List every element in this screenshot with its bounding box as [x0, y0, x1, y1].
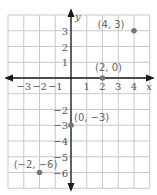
x-tick-label: 4 — [131, 81, 137, 92]
y-tick-label: 2 — [62, 42, 68, 53]
x-tick-label: 3 — [115, 81, 121, 92]
y-tick-label: −3 — [53, 120, 68, 131]
point-label: (2, 0) — [95, 62, 122, 73]
y-tick-label: −4 — [53, 136, 68, 147]
x-tick-label: −3 — [16, 81, 31, 92]
x-tick-label: −1 — [48, 81, 63, 92]
x-tick-label: −2 — [32, 81, 47, 92]
x-tick-label: 2 — [99, 81, 105, 92]
y-axis-label: y — [74, 11, 81, 22]
tick-labels: −3−2−11234321−2−3−4−5−6 — [16, 26, 137, 179]
point-label: (−2, −6) — [14, 159, 58, 170]
point-label: (0, −3) — [74, 112, 109, 123]
y-tick-label: −2 — [53, 105, 68, 116]
data-point — [131, 28, 137, 34]
x-axis-label: x — [146, 81, 152, 92]
data-point — [68, 122, 74, 128]
data-point — [37, 170, 43, 176]
x-tick-label: 1 — [84, 81, 90, 92]
y-tick-label: 1 — [62, 57, 68, 68]
point-label: (4, 3) — [98, 19, 125, 30]
coordinate-plane: xy −3−2−11234321−2−3−4−5−6 (4, 3)(2, 0)(… — [0, 0, 157, 195]
data-point — [100, 75, 106, 81]
y-tick-label: 3 — [62, 26, 68, 37]
